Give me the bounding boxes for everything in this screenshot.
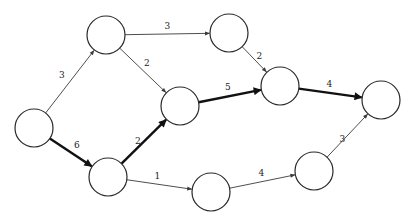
- edge-i-f: [327, 114, 368, 157]
- edge-weight-label: 4: [258, 168, 264, 178]
- edge-c-e: [242, 47, 266, 72]
- edge-weight-label: 3: [59, 70, 65, 80]
- edge-weight-label: 2: [144, 58, 150, 68]
- edge-b-c: [125, 33, 210, 34]
- node-g: [89, 158, 127, 196]
- node-f: [362, 81, 400, 119]
- network-diagram: 36322125443: [0, 0, 415, 220]
- node-circle: [161, 87, 199, 125]
- node-d: [161, 87, 199, 125]
- node-circle: [192, 173, 230, 211]
- node-circle: [15, 109, 53, 147]
- node-i: [295, 152, 333, 190]
- node-circle: [295, 152, 333, 190]
- node-a: [15, 109, 53, 147]
- node-e: [261, 67, 299, 105]
- node-circle: [362, 81, 400, 119]
- edge-e-f: [299, 89, 362, 98]
- nodes-layer: [15, 14, 400, 211]
- edge-weight-label: 6: [74, 140, 80, 150]
- edge-weight-label: 4: [326, 79, 332, 89]
- edge-weight-label: 3: [339, 134, 345, 144]
- node-circle: [210, 14, 248, 52]
- edge-g-d: [122, 120, 167, 164]
- edge-weight-label: 2: [256, 51, 262, 61]
- node-h: [192, 173, 230, 211]
- edge-a-g: [50, 138, 92, 166]
- node-circle: [261, 67, 299, 105]
- edge-weight-label: 2: [135, 136, 141, 146]
- edge-weight-label: 3: [164, 21, 170, 31]
- node-c: [210, 14, 248, 52]
- node-b: [87, 16, 125, 54]
- node-circle: [89, 158, 127, 196]
- edge-weight-label: 5: [225, 82, 231, 92]
- edge-b-d: [120, 48, 166, 92]
- edge-a-b: [46, 50, 94, 113]
- node-circle: [87, 16, 125, 54]
- edge-weight-label: 1: [154, 171, 160, 181]
